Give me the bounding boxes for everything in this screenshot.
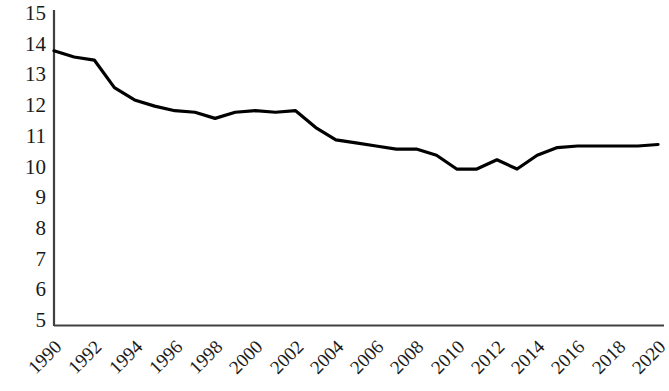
data-series-line [54,51,658,169]
